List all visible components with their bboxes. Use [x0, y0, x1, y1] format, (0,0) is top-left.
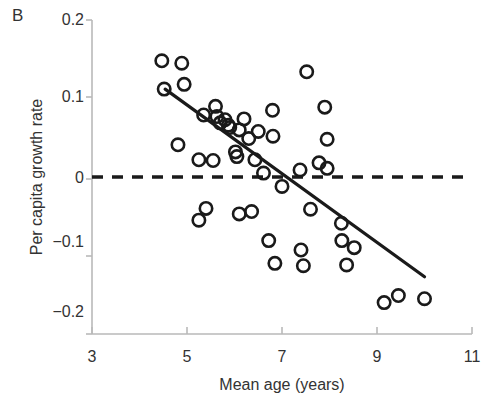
- data-point: [193, 154, 205, 166]
- data-point: [263, 234, 275, 246]
- data-point: [200, 202, 212, 214]
- data-point: [156, 55, 168, 67]
- data-point: [348, 241, 360, 253]
- data-point: [378, 296, 390, 308]
- data-point: [304, 203, 316, 215]
- data-point: [266, 104, 278, 116]
- data-point: [233, 208, 245, 220]
- data-point: [267, 130, 279, 142]
- data-point: [207, 154, 219, 166]
- data-point: [294, 164, 306, 176]
- data-point: [178, 78, 190, 90]
- data-point: [340, 259, 352, 271]
- data-point: [319, 101, 331, 113]
- data-point: [276, 180, 288, 192]
- data-point: [176, 57, 188, 69]
- data-point: [172, 139, 184, 151]
- data-point: [336, 234, 348, 246]
- data-point: [245, 205, 257, 217]
- data-point: [269, 257, 281, 269]
- data-point: [243, 132, 255, 144]
- data-point: [295, 244, 307, 256]
- data-point: [392, 289, 404, 301]
- data-point: [418, 292, 430, 304]
- data-point: [193, 214, 205, 226]
- data-point: [301, 66, 313, 78]
- scatter-plot-figure: B Per capita growth rate Mean age (years…: [0, 0, 497, 413]
- data-point: [321, 133, 333, 145]
- data-point: [297, 260, 309, 272]
- plot-canvas: [0, 0, 497, 413]
